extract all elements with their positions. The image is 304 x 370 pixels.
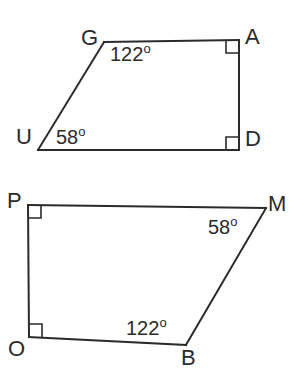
angle-value-M: 58: [208, 216, 230, 238]
degree-symbol-M: o: [230, 214, 237, 229]
vertex-label-D: D: [245, 128, 261, 150]
angle-label-U: 58o: [56, 125, 85, 147]
vertex-label-G: G: [81, 27, 98, 49]
vertex-label-M: M: [268, 193, 286, 215]
angle-value-G: 122: [110, 43, 143, 65]
angle-value-U: 58: [56, 126, 78, 148]
degree-symbol-B: o: [159, 315, 166, 330]
right-angle-marker-P: [28, 205, 41, 218]
segment-OP: [28, 205, 29, 337]
degree-symbol-U: o: [78, 124, 85, 139]
segment-BO: [29, 337, 186, 345]
angle-label-B: 122o: [126, 316, 167, 338]
vertex-label-A: A: [245, 26, 260, 48]
geometry-figures-canvas: [0, 0, 304, 370]
vertex-label-P: P: [7, 190, 22, 212]
right-angle-marker-O: [29, 324, 42, 337]
right-angle-marker-A: [226, 40, 239, 53]
right-angle-marker-D: [226, 137, 239, 150]
segment-PM: [28, 205, 266, 208]
vertex-label-U: U: [16, 126, 32, 148]
angle-value-B: 122: [126, 317, 159, 339]
vertex-label-B: B: [181, 347, 196, 369]
vertex-label-O: O: [8, 338, 25, 360]
angle-label-G: 122o: [110, 42, 151, 64]
degree-symbol-G: o: [143, 41, 150, 56]
angle-label-M: 58o: [208, 215, 237, 237]
